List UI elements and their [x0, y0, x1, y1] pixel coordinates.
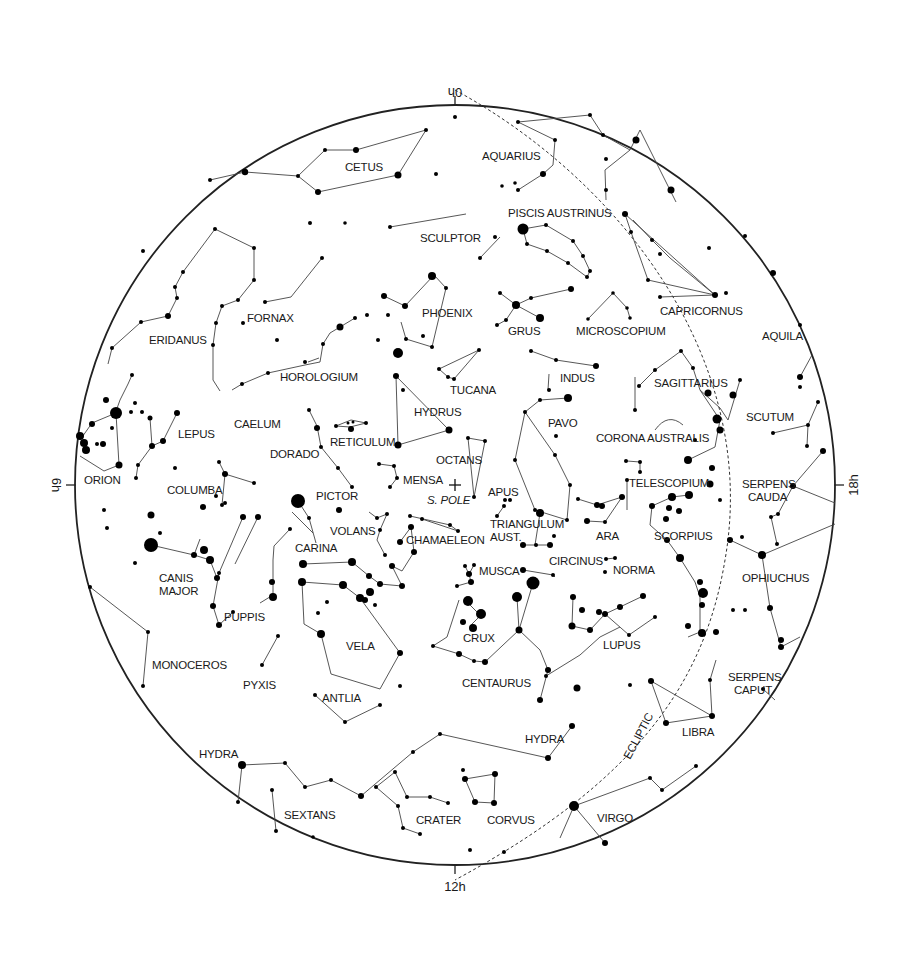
constellation-label: LIBRA	[682, 726, 715, 738]
south-pole-label: S. POLE	[427, 494, 471, 506]
constellation-label: AQUARIUS	[482, 150, 541, 162]
constellation-label: CORVUS	[487, 814, 535, 826]
constellation-label: TUCANA	[450, 384, 497, 396]
constellation-label: NORMA	[613, 564, 655, 576]
constellation-label: GRUS	[508, 325, 541, 337]
constellation-label: SEXTANS	[284, 809, 336, 821]
constellation-label: CHAMAELEON	[406, 534, 485, 546]
constellation-label: CRUX	[463, 632, 495, 644]
constellation-label: SCUTUM	[746, 411, 794, 423]
constellation-label: AQUILA	[762, 330, 804, 342]
constellation-label: PUPPIS	[224, 611, 266, 623]
constellation-label: SCORPIUS	[654, 530, 713, 542]
constellation-label: CARINA	[295, 542, 338, 554]
constellation-label: CAPRICORNUS	[660, 305, 743, 317]
constellation-label: INDUS	[560, 372, 595, 384]
constellation-label: CRATER	[416, 814, 461, 826]
constellation-label: COLUMBA	[167, 484, 223, 496]
constellation-label: TELESCOPIUM	[629, 477, 709, 489]
constellation-label: OPHIUCHUS	[742, 572, 810, 584]
constellation-label: PICTOR	[316, 490, 358, 502]
constellation-label: MENSA	[403, 474, 443, 486]
constellation-label: MICROSCOPIUM	[576, 325, 666, 337]
south-pole-marker	[449, 479, 461, 491]
constellation-label: CAELUM	[234, 418, 281, 430]
constellation-label: ANTLIA	[322, 692, 362, 704]
constellation-label: LEPUS	[178, 428, 215, 440]
star-chart: 0h 6h 18h 12h ECLIPTIC S. POLE	[0, 0, 924, 956]
constellation-label: PISCIS AUSTRINUS	[508, 207, 612, 219]
constellation-label: PAVO	[548, 417, 578, 429]
constellation-label: APUS	[488, 486, 519, 498]
constellation-label: DORADO	[270, 448, 320, 460]
constellation-label: MONOCEROS	[152, 659, 227, 671]
constellation-label: HOROLOGIUM	[280, 371, 358, 383]
constellation-label: MUSCA	[479, 565, 520, 577]
constellation-label: RETICULUM	[330, 436, 395, 448]
constellation-label: TRIANGULUMAUST.	[490, 518, 564, 543]
constellation-label: CIRCINUS	[549, 555, 604, 567]
constellation-label: ORION	[84, 474, 121, 486]
constellation-label: PYXIS	[243, 679, 276, 691]
constellation-label: HYDRA	[525, 733, 565, 745]
constellation-label: ARA	[596, 530, 620, 542]
constellation-label: VIRGO	[597, 812, 633, 824]
constellation-label: CETUS	[345, 161, 384, 173]
hour-label-right: 18h	[846, 474, 861, 496]
constellation-labels: CETUSAQUARIUSPISCIS AUSTRINUSSCULPTORERI…	[84, 150, 810, 826]
constellation-label: SAGITTARIUS	[654, 377, 728, 389]
ecliptic-label: ECLIPTIC	[621, 711, 655, 761]
constellation-label: OCTANS	[436, 454, 482, 466]
constellation-label: SCULPTOR	[420, 232, 481, 244]
constellation-label: SERPENSCAUDA	[742, 478, 796, 503]
constellation-label: CENTAURUS	[462, 677, 531, 689]
constellation-label: ERIDANUS	[149, 334, 207, 346]
constellation-label: VELA	[346, 640, 375, 652]
constellation-label: HYDRUS	[414, 406, 462, 418]
constellation-label: CANISMAJOR	[159, 572, 198, 597]
constellation-lines	[80, 115, 835, 843]
constellation-label: FORNAX	[247, 312, 294, 324]
constellation-label: PHOENIX	[422, 307, 473, 319]
constellation-label: CORONA AUSTRALIS	[596, 432, 710, 444]
hour-label-bottom: 12h	[444, 879, 466, 894]
constellation-label: LUPUS	[603, 639, 641, 651]
hour-label-left: 6h	[49, 478, 64, 492]
constellation-label: HYDRA	[199, 748, 239, 760]
constellation-label: VOLANS	[330, 525, 376, 537]
